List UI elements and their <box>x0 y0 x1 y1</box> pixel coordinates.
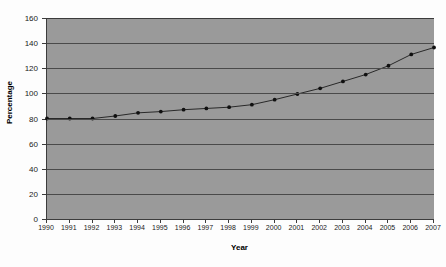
x-axis: 1990199119921993199419951996199719981999… <box>46 223 433 237</box>
data-point <box>341 80 345 84</box>
gridline <box>47 93 434 94</box>
x-tick-mark <box>410 219 411 223</box>
data-point <box>364 73 368 77</box>
x-tick-label: 2001 <box>289 223 305 232</box>
x-tick-label: 1992 <box>84 223 100 232</box>
gridline <box>47 68 434 69</box>
data-point <box>250 103 254 107</box>
x-tick-mark <box>69 219 70 223</box>
gridline <box>47 119 434 120</box>
x-tick-label: 1990 <box>38 223 54 232</box>
series-line <box>47 48 434 119</box>
data-point <box>113 114 117 118</box>
x-tick-mark <box>92 219 93 223</box>
x-tick-mark <box>433 219 434 223</box>
gridline <box>47 144 434 145</box>
y-tick-label: 120 <box>25 64 38 73</box>
x-tick-mark <box>387 219 388 223</box>
y-tick-label: 80 <box>29 114 38 123</box>
gridline <box>47 169 434 170</box>
x-tick-label: 2004 <box>357 223 373 232</box>
data-point <box>182 108 186 112</box>
x-tick-label: 1998 <box>220 223 236 232</box>
y-tick-label: 140 <box>25 39 38 48</box>
x-tick-label: 2000 <box>266 223 282 232</box>
gridline <box>47 43 434 44</box>
x-tick-mark <box>251 219 252 223</box>
x-axis-title: Year <box>46 243 433 252</box>
x-tick-mark <box>365 219 366 223</box>
x-tick-label: 1997 <box>198 223 214 232</box>
line-chart: 020406080100120140160 Percentage 1990199… <box>0 0 446 267</box>
x-tick-label: 2002 <box>311 223 327 232</box>
x-tick-label: 1996 <box>175 223 191 232</box>
x-tick-mark <box>342 219 343 223</box>
gridline <box>47 194 434 195</box>
x-tick-label: 2007 <box>425 223 441 232</box>
x-tick-mark <box>137 219 138 223</box>
y-tick-label: 20 <box>29 189 38 198</box>
x-tick-label: 1994 <box>129 223 145 232</box>
x-tick-mark <box>114 219 115 223</box>
data-point <box>432 46 436 50</box>
data-point <box>409 53 413 57</box>
x-tick-mark <box>160 219 161 223</box>
x-tick-mark <box>46 219 47 223</box>
data-point <box>387 64 391 68</box>
data-point <box>273 98 277 102</box>
x-tick-mark <box>205 219 206 223</box>
data-point <box>136 111 140 115</box>
data-point <box>318 86 322 90</box>
x-tick-label: 1993 <box>106 223 122 232</box>
y-axis-title: Percentage <box>5 63 14 143</box>
data-point <box>227 105 231 109</box>
x-tick-label: 1991 <box>61 223 77 232</box>
data-point <box>159 110 163 114</box>
y-tick-label: 40 <box>29 164 38 173</box>
x-tick-label: 2006 <box>402 223 418 232</box>
data-point <box>204 107 208 111</box>
x-tick-label: 1995 <box>152 223 168 232</box>
x-tick-mark <box>274 219 275 223</box>
x-tick-mark <box>183 219 184 223</box>
x-tick-label: 1999 <box>243 223 259 232</box>
x-tick-label: 2005 <box>380 223 396 232</box>
x-tick-mark <box>319 219 320 223</box>
x-tick-mark <box>228 219 229 223</box>
plot-area <box>46 18 434 220</box>
y-tick-label: 160 <box>25 14 38 23</box>
x-tick-label: 2003 <box>334 223 350 232</box>
x-tick-mark <box>296 219 297 223</box>
gridline <box>47 18 434 19</box>
y-tick-label: 60 <box>29 139 38 148</box>
y-tick-label: 100 <box>25 89 38 98</box>
